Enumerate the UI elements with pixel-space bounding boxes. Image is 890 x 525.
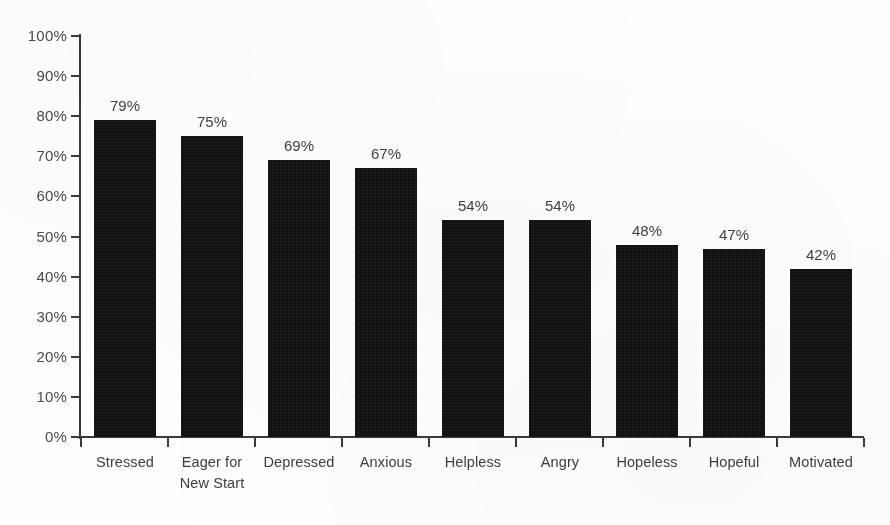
x-axis-tick — [428, 438, 430, 447]
y-axis-tick — [71, 155, 79, 157]
y-axis-tick — [71, 356, 79, 358]
y-axis-tick-label: 90% — [0, 68, 67, 83]
bar-chart: 0%10%20%30%40%50%60%70%80%90%100% 79%75%… — [0, 0, 890, 525]
bar — [703, 249, 765, 437]
y-axis-tick — [71, 35, 79, 37]
x-axis-category-label: Hopeless — [603, 452, 691, 473]
bar-fill — [703, 249, 765, 437]
bar — [790, 269, 852, 437]
bar-fill — [268, 160, 330, 437]
y-axis-line — [79, 34, 81, 439]
y-axis-tick-label: 10% — [0, 389, 67, 404]
bar — [94, 120, 156, 437]
y-axis-tick — [71, 75, 79, 77]
x-axis-tick — [515, 438, 517, 447]
bar-fill — [616, 245, 678, 437]
bar-fill — [790, 269, 852, 437]
x-axis-category-label: Hopeful — [690, 452, 778, 473]
x-axis-category-label: Stressed — [81, 452, 169, 473]
bar-fill — [181, 136, 243, 437]
bar-fill — [529, 220, 591, 437]
y-axis-tick-label: 60% — [0, 188, 67, 203]
y-axis-tick — [71, 276, 79, 278]
bar-value-label: 48% — [604, 223, 690, 238]
y-axis-tick-label: 100% — [0, 28, 67, 43]
y-axis-tick-label: 0% — [0, 429, 67, 444]
bar — [529, 220, 591, 437]
x-axis-category-label: Eager for New Start — [168, 452, 256, 494]
bar-fill — [442, 220, 504, 437]
x-axis-tick — [776, 438, 778, 447]
y-axis-tick-label: 40% — [0, 269, 67, 284]
x-axis-category-label: Anxious — [342, 452, 430, 473]
bar-value-label: 54% — [430, 198, 516, 213]
y-axis-tick — [71, 236, 79, 238]
bar-value-label: 75% — [169, 114, 255, 129]
y-axis-tick — [71, 115, 79, 117]
x-axis-tick — [80, 438, 82, 447]
x-axis-tick — [602, 438, 604, 447]
bar-value-label: 42% — [778, 247, 864, 262]
y-axis-tick — [71, 195, 79, 197]
x-axis-tick — [341, 438, 343, 447]
y-axis-tick-label: 30% — [0, 309, 67, 324]
x-axis-tick — [254, 438, 256, 447]
x-axis-tick — [689, 438, 691, 447]
bar-value-label: 67% — [343, 146, 429, 161]
x-axis-category-label: Motivated — [777, 452, 865, 473]
x-axis-category-label: Depressed — [255, 452, 343, 473]
bar-value-label: 79% — [82, 98, 168, 113]
y-axis-tick-label: 20% — [0, 349, 67, 364]
bar — [181, 136, 243, 437]
bar-fill — [94, 120, 156, 437]
bar-fill — [355, 168, 417, 437]
x-axis-tick — [167, 438, 169, 447]
y-axis-tick-label: 80% — [0, 108, 67, 123]
y-axis-tick — [71, 436, 79, 438]
x-axis-category-label: Angry — [516, 452, 604, 473]
bar — [442, 220, 504, 437]
bar — [268, 160, 330, 437]
x-axis-tick — [863, 438, 865, 447]
bar-value-label: 54% — [517, 198, 603, 213]
x-axis-category-label: Helpless — [429, 452, 517, 473]
bar-value-label: 69% — [256, 138, 342, 153]
y-axis-tick — [71, 316, 79, 318]
y-axis-tick-label: 50% — [0, 229, 67, 244]
bar — [355, 168, 417, 437]
y-axis-tick — [71, 396, 79, 398]
bar-value-label: 47% — [691, 227, 777, 242]
y-axis-tick-label: 70% — [0, 148, 67, 163]
bar — [616, 245, 678, 437]
